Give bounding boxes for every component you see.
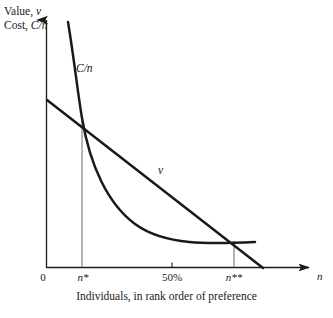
cost-curve-label: C/n bbox=[76, 62, 93, 76]
value-line-v bbox=[47, 100, 263, 268]
y-axis-title-line1: Value, v bbox=[4, 5, 47, 19]
x-tick-label-n-double-star: n** bbox=[220, 271, 248, 284]
x-axis-symbol-label: n bbox=[317, 270, 329, 283]
cost-curve-c-over-n bbox=[68, 22, 255, 243]
y-axis-title: Value, v Cost, C/n bbox=[4, 5, 47, 32]
figure-container: Value, v Cost, C/n 0 n* 50% n** n C/n v … bbox=[0, 0, 333, 318]
value-line-label: v bbox=[158, 164, 163, 178]
x-axis-title: Individuals, in rank order of preference bbox=[0, 290, 333, 304]
x-tick-label-50-percent: 50% bbox=[156, 271, 188, 284]
x-tick-label-n-star: n* bbox=[72, 271, 94, 284]
x-tick-label-0: 0 bbox=[36, 271, 50, 284]
y-axis-title-line2: Cost, C/n bbox=[4, 19, 47, 33]
